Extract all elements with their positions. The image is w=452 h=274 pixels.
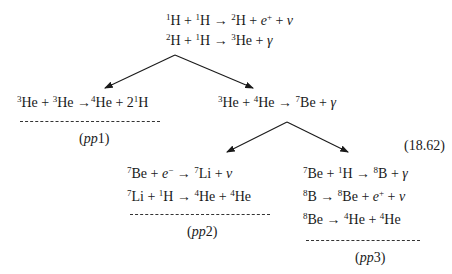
reaction-be7-proton: 7Be + 1H → 8B + γ (303, 166, 408, 182)
pp1-label: (pp1) (79, 131, 109, 147)
pp3-divider (306, 240, 420, 241)
reaction-be7-electron-capture: 7Be + e− → 7Li + ν (127, 166, 232, 182)
equation-number: (18.62) (404, 138, 445, 154)
reaction-li7-proton: 7Li + 1H → 4He + 4He (127, 189, 251, 205)
pp2-label: (pp2) (187, 224, 217, 240)
reaction-pp-fusion: 1H + 1H → 2H + e+ + ν (166, 13, 293, 29)
reaction-he3-he3: 3He + 3He →4He + 21H (17, 95, 148, 111)
reaction-b8-decay: 8B → 8Be + e+ + ν (303, 189, 405, 205)
pp1-divider (20, 121, 160, 122)
reaction-be8-decay: 8Be → 4He + 4He (303, 212, 401, 228)
reaction-he3-he4: 3He + 4He → 7Be + γ (218, 95, 336, 111)
reaction-deuterium-capture: 2H + 1H → 3He + γ (166, 33, 272, 49)
pp3-label: (pp3) (355, 250, 385, 266)
pp2-divider (130, 214, 270, 215)
